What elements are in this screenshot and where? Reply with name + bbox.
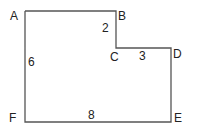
l-shape-diagram: A B C D E F 2 3 6 8 <box>0 0 198 126</box>
vertex-label-b: B <box>118 9 126 23</box>
side-length-bc: 2 <box>102 21 109 35</box>
vertex-label-d: D <box>173 47 182 61</box>
side-length-cd: 3 <box>139 49 146 63</box>
side-length-fe: 8 <box>88 108 95 122</box>
vertex-label-c: C <box>110 50 119 64</box>
vertex-label-e: E <box>174 111 182 125</box>
vertex-label-a: A <box>10 9 18 23</box>
side-length-af: 6 <box>28 55 35 69</box>
vertex-label-f: F <box>9 111 16 125</box>
polygon-outline <box>25 11 171 122</box>
